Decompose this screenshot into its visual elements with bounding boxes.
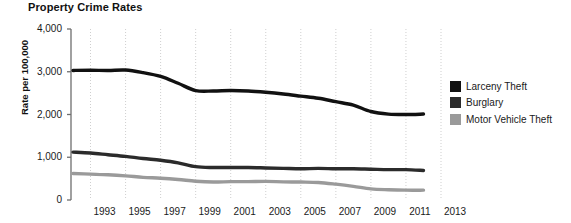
- y-axis-tick-label: 1,000: [16, 151, 62, 162]
- legend-swatch-icon: [450, 114, 461, 125]
- x-axis-tick-label: 2009: [365, 206, 405, 217]
- x-axis-tick-label: 1999: [190, 206, 230, 217]
- x-axis-tick-label: 2013: [435, 206, 475, 217]
- x-axis-tick-label: 1993: [85, 206, 125, 217]
- x-axis-tick-label: 2007: [330, 206, 370, 217]
- y-axis-tick-label: 4,000: [16, 23, 62, 34]
- legend-item-label: Larceny Theft: [466, 81, 527, 92]
- legend-item-label: Motor Vehicle Theft: [466, 114, 552, 125]
- legend-item-label: Burglary: [466, 97, 503, 108]
- x-axis-tick-label: 2011: [400, 206, 440, 217]
- legend-swatch-icon: [450, 97, 461, 108]
- legend-item[interactable]: Larceny Theft: [450, 78, 570, 95]
- x-axis-tick-label: 2003: [260, 206, 300, 217]
- x-axis-tick-label: 2001: [225, 206, 265, 217]
- x-axis-tick-label: 2005: [295, 206, 335, 217]
- legend-item[interactable]: Burglary: [450, 95, 570, 112]
- property-crime-rates-chart: Property Crime Rates Rate per 100,000 01…: [0, 0, 571, 223]
- x-axis-tick-label: 1995: [120, 206, 160, 217]
- y-axis-tick-label: 2,000: [16, 109, 62, 120]
- x-axis-tick-label: 1997: [155, 206, 195, 217]
- y-axis-tick-label: 3,000: [16, 66, 62, 77]
- y-axis-tick-label: 0: [16, 194, 62, 205]
- legend-item[interactable]: Motor Vehicle Theft: [450, 111, 570, 128]
- chart-legend: Larceny TheftBurglaryMotor Vehicle Theft: [450, 78, 570, 128]
- legend-swatch-icon: [450, 81, 461, 92]
